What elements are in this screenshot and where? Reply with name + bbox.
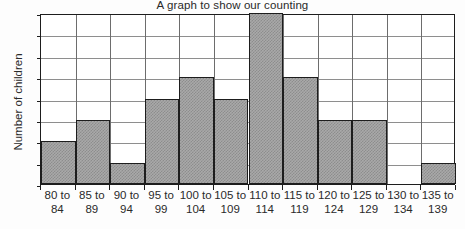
x-axis-tick-label-line1: 100 to (180, 189, 212, 201)
x-axis-tick-label: 95 to99 (144, 189, 179, 216)
y-axis-tick-mark (37, 58, 41, 59)
gridline-horizontal (41, 58, 454, 59)
x-axis-tick-label-line1: 110 to (249, 189, 280, 201)
x-axis-tick-label-line2: 124 (317, 203, 352, 217)
bar (214, 99, 249, 185)
x-axis-tick-label: 85 to89 (75, 189, 110, 216)
y-axis-tick-mark (37, 36, 41, 37)
x-axis-tick-label-line1: 90 to (114, 189, 140, 201)
x-axis-tick-label-line2: 109 (213, 203, 248, 217)
plot-area (40, 14, 455, 185)
x-axis-tick-label-line1: 115 to (284, 189, 315, 201)
x-axis-tick-label-line2: 104 (178, 203, 213, 217)
x-axis-tick-label-line2: 139 (420, 203, 455, 217)
y-axis-tick-mark (37, 143, 41, 144)
x-axis-tick-label-line1: 125 to (353, 189, 385, 201)
y-axis-title: Number of children (12, 27, 24, 177)
x-axis-tick-label-line1: 105 to (214, 189, 246, 201)
gridline-horizontal (41, 36, 454, 37)
bar (249, 13, 284, 184)
x-axis-tick-label-line2: 99 (144, 203, 179, 217)
x-axis-tick-label: 120 to124 (317, 189, 352, 216)
x-axis-tick-label: 125 to129 (351, 189, 386, 216)
bar (145, 99, 180, 185)
x-axis-tick-label: 110 to114 (248, 189, 283, 216)
gridline-vertical (110, 15, 111, 184)
x-axis-tick-label-line2: 94 (109, 203, 144, 217)
x-axis-tick-label-line1: 120 to (318, 189, 350, 201)
x-axis-tick-label-line2: 134 (386, 203, 421, 217)
x-axis-tick-label-line2: 129 (351, 203, 386, 217)
chart-title: A graph to show our counting (0, 0, 465, 11)
bar (283, 77, 318, 184)
x-axis-tick-label-line1: 135 to (422, 189, 454, 201)
x-axis-tick-label: 115 to119 (282, 189, 317, 216)
x-axis-tick-label: 105 to109 (213, 189, 248, 216)
x-axis-tick-label: 90 to94 (109, 189, 144, 216)
x-axis-tick-label-line1: 85 to (79, 189, 105, 201)
x-axis-tick-label-line2: 119 (282, 203, 317, 217)
bar (76, 120, 111, 184)
gridline-vertical (387, 15, 388, 184)
x-axis-tick-label: 80 to84 (40, 189, 75, 216)
gridline-vertical (421, 15, 422, 184)
gridline-horizontal (41, 79, 454, 80)
x-axis-tick-mark (455, 185, 456, 190)
bar (352, 120, 387, 184)
y-axis-tick-mark (37, 79, 41, 80)
x-axis-tick-label: 135 to139 (420, 189, 455, 216)
y-axis-tick-mark (37, 15, 41, 16)
x-axis-tick-label-line2: 84 (40, 203, 75, 217)
x-axis-tick-label-line2: 114 (248, 203, 283, 217)
x-axis-tick-label: 130 to134 (386, 189, 421, 216)
bar (421, 163, 456, 184)
chart-page: A graph to show our counting Number of c… (0, 0, 465, 229)
bar (41, 141, 76, 184)
bar (110, 163, 145, 184)
x-axis-tick-label-line1: 130 to (387, 189, 419, 201)
x-axis-tick-label: 100 to104 (178, 189, 213, 216)
x-axis-tick-label-line1: 80 to (45, 189, 71, 201)
bar (318, 120, 353, 184)
x-axis-tick-label-line1: 95 to (148, 189, 174, 201)
y-axis-tick-mark (37, 101, 41, 102)
bar (179, 77, 214, 184)
y-axis-tick-mark (37, 165, 41, 166)
x-axis-tick-label-line2: 89 (75, 203, 110, 217)
y-axis-tick-mark (37, 122, 41, 123)
